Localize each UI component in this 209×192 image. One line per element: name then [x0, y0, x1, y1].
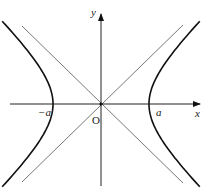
- origin-point: [100, 103, 103, 106]
- left-vertex-label: −a: [38, 106, 51, 118]
- hyperbola-diagram: y x O −a a: [0, 0, 209, 192]
- y-axis-label: y: [90, 6, 96, 18]
- x-axis-label: x: [194, 107, 200, 119]
- right-vertex-label: a: [156, 106, 162, 118]
- origin-label: O: [92, 114, 100, 126]
